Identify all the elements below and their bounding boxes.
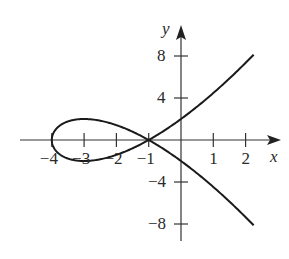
x-tick-label: 1 <box>209 150 218 167</box>
y-tick-label: 8 <box>157 47 166 64</box>
x-tick-label: 2 <box>242 150 251 167</box>
y-axis-label: y <box>162 20 170 37</box>
x-tick-label: −1 <box>137 150 155 167</box>
x-tick-label: −3 <box>72 150 90 167</box>
x-tick-label: −2 <box>104 150 122 167</box>
y-tick-label: −8 <box>148 215 166 232</box>
x-axis-label: x <box>270 148 278 165</box>
chart-canvas <box>0 0 289 259</box>
x-tick-label: −4 <box>40 150 58 167</box>
y-tick-label: −4 <box>148 173 166 190</box>
y-tick-label: 4 <box>157 89 166 106</box>
